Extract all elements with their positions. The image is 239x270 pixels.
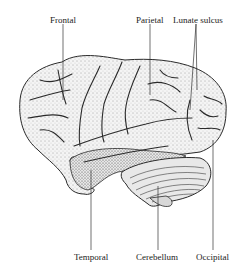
label-temporal: Temporal [74,252,108,262]
label-occipital: Occipital [196,252,229,262]
label-cerebellum: Cerebellum [136,252,178,262]
brain-illustration [0,0,239,270]
label-lunate-sulcus: Lunate sulcus [173,15,223,25]
brain-diagram: Frontal Parietal Lunate sulcus Temporal … [0,0,239,270]
label-parietal: Parietal [136,15,164,25]
label-frontal: Frontal [50,15,76,25]
